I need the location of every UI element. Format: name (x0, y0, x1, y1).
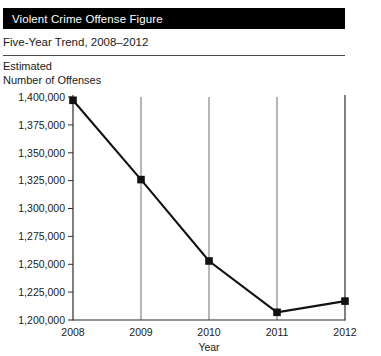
y-tick-label: 1,250,000 (18, 258, 65, 270)
y-tick-label: 1,350,000 (18, 147, 65, 159)
x-tick-label: 2012 (333, 326, 357, 338)
x-axis-tick-labels: 2008 2009 2010 2011 2012 (61, 326, 357, 338)
y-tick-label: 1,300,000 (18, 202, 65, 214)
gridlines-vertical (141, 97, 277, 320)
data-point-marker (273, 309, 281, 317)
x-tick-label: 2011 (266, 326, 289, 338)
y-axis-tick-labels: 1,400,000 1,375,000 1,350,000 1,325,000 … (18, 91, 65, 326)
y-tick-label: 1,325,000 (18, 174, 65, 186)
y-tick-label: 1,275,000 (18, 230, 65, 242)
x-tick-label: 2010 (197, 326, 221, 338)
data-point-marker (341, 297, 349, 305)
data-point-marker (205, 257, 213, 265)
x-tick-label: 2008 (61, 326, 85, 338)
y-tick-label: 1,400,000 (18, 91, 65, 103)
y-axis-ticks (68, 97, 73, 320)
x-axis-title: Year (198, 341, 220, 353)
y-tick-label: 1,225,000 (18, 286, 65, 298)
y-tick-label: 1,200,000 (18, 314, 65, 326)
y-tick-label: 1,375,000 (18, 119, 65, 131)
line-chart: 1,400,000 1,375,000 1,350,000 1,325,000 … (0, 0, 381, 356)
data-point-marker (137, 176, 145, 184)
x-tick-label: 2009 (129, 326, 153, 338)
data-point-marker (69, 97, 77, 105)
